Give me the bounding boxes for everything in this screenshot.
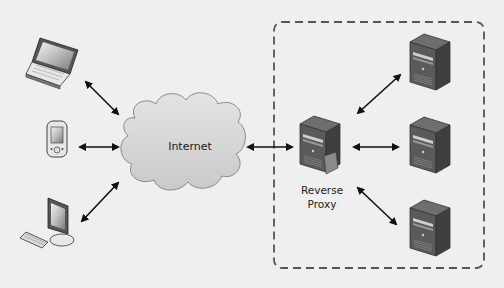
laptop-icon (26, 38, 78, 89)
mobile-phone-icon (47, 121, 67, 157)
backend-server-3-icon (410, 200, 450, 256)
backend-server-2-icon (410, 117, 450, 173)
reverse-proxy-label: Reverse Proxy (292, 183, 352, 211)
reverse-proxy-server-icon (300, 116, 340, 174)
reverse-proxy-label-line2: Proxy (292, 197, 352, 211)
desktop-computer-icon (20, 198, 74, 248)
backend-server-1-icon (410, 34, 450, 90)
internet-label: Internet (160, 140, 220, 154)
network-diagram (0, 0, 504, 288)
reverse-proxy-label-line1: Reverse (292, 183, 352, 197)
